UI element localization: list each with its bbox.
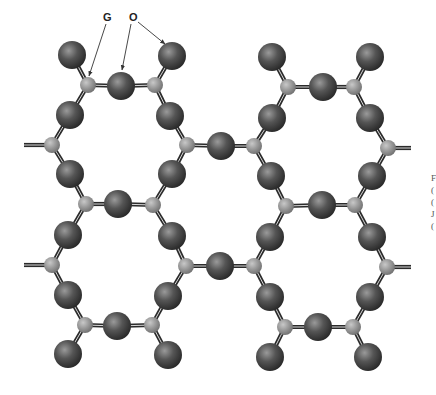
g-atom: [277, 319, 293, 335]
o-atom: [158, 160, 186, 188]
label-o: O: [129, 11, 138, 23]
label-arrow-g: [89, 24, 106, 76]
o-atom: [154, 341, 182, 369]
o-atom: [56, 160, 84, 188]
g-atom: [147, 77, 163, 93]
g-atom: [346, 79, 362, 95]
o-atom: [58, 41, 86, 69]
o-atom: [356, 283, 384, 311]
o-atom: [309, 73, 337, 101]
o-atom: [54, 281, 82, 309]
caption-fragment: (: [431, 196, 434, 208]
g-atom: [380, 140, 396, 156]
o-atom: [103, 312, 131, 340]
g-atom: [179, 137, 195, 153]
o-atom: [207, 132, 235, 160]
o-atom: [256, 283, 284, 311]
o-atom: [156, 102, 184, 130]
o-atom: [158, 42, 186, 70]
o-atom: [256, 343, 284, 371]
o-atom: [258, 104, 286, 132]
o-atom: [358, 223, 386, 251]
o-atom: [257, 162, 285, 190]
label-arrows-layer: [89, 22, 165, 76]
o-atom: [56, 101, 84, 129]
o-atom: [258, 43, 286, 71]
silicate-lattice-diagram: [0, 0, 436, 395]
label-arrow-o: [122, 24, 131, 70]
caption-fragment: (: [431, 184, 434, 196]
g-atom: [80, 77, 96, 93]
o-atom: [304, 313, 332, 341]
g-atom: [345, 319, 361, 335]
o-atom: [354, 343, 382, 371]
label-arrow-o: [138, 22, 165, 44]
o-atom: [308, 191, 336, 219]
g-atom: [77, 317, 93, 333]
g-atom: [246, 138, 262, 154]
caption-fragment: J: [431, 208, 435, 220]
o-atom: [154, 282, 182, 310]
g-atom: [44, 257, 60, 273]
label-g: G: [103, 11, 112, 23]
g-atom: [178, 258, 194, 274]
o-atom: [158, 222, 186, 250]
o-atom: [54, 221, 82, 249]
g-atom: [44, 137, 60, 153]
o-atom: [206, 252, 234, 280]
caption-fragment: F: [431, 172, 436, 184]
g-atom: [280, 79, 296, 95]
o-atom: [356, 104, 384, 132]
o-atom: [107, 72, 135, 100]
g-atom: [379, 259, 395, 275]
g-atom: [145, 197, 161, 213]
bonds-layer: [52, 55, 388, 357]
o-atom: [356, 43, 384, 71]
o-atom: [54, 340, 82, 368]
o-atom: [104, 190, 132, 218]
o-atom: [358, 162, 386, 190]
g-atom: [347, 197, 363, 213]
o-atom: [256, 223, 284, 251]
g-atom: [144, 317, 160, 333]
g-atom: [246, 258, 262, 274]
g-atom: [278, 198, 294, 214]
caption-fragment: (: [431, 220, 434, 232]
g-atom: [78, 196, 94, 212]
